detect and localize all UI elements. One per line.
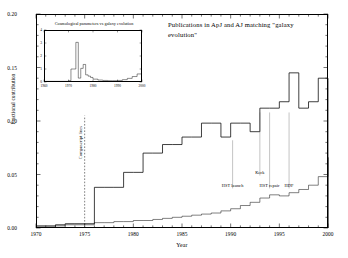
x-tick-label: 1975 (70, 231, 100, 237)
inset-y-tick-label: 2 (34, 54, 42, 58)
y-tick-label: 0.20 (0, 11, 17, 17)
y-tick-label: 0.15 (0, 65, 17, 71)
y-axis-title: Fractional contribution (10, 62, 16, 136)
inset-y-tick-label: 4 (34, 28, 42, 32)
inset-y-tick-label: 3 (34, 41, 42, 45)
x-axis-title: Year (36, 242, 328, 248)
inset-x-tick-label: 2000 (132, 84, 152, 88)
chart-figure: Fractional contribution Year Publication… (0, 0, 348, 258)
x-tick-label: 1995 (264, 231, 294, 237)
x-tick-label: 1990 (216, 231, 246, 237)
event-annotation-label: Keck (230, 170, 290, 175)
inset-x-tick-label: 1970 (59, 84, 79, 88)
y-tick-label: 0.00 (0, 225, 17, 231)
inset-x-tick-label: 1980 (83, 84, 103, 88)
x-tick-label: 1985 (167, 231, 197, 237)
inset-title: Cosmological parameters vs galaxy evolut… (36, 21, 152, 26)
x-tick-label: 1980 (118, 231, 148, 237)
x-tick-label: 2000 (313, 231, 343, 237)
inset-x-tick-label: 1960 (34, 84, 54, 88)
inset-plot-frame (44, 30, 142, 82)
chart-title: Publications in ApJ and AJ matching "gal… (168, 20, 318, 40)
event-annotation-label: HDF (259, 183, 319, 188)
y-tick-label: 0.10 (0, 118, 17, 124)
x-tick-label: 1970 (21, 231, 51, 237)
compuscript-lines-label: Compuscript lines (78, 121, 83, 165)
y-tick-label: 0.05 (0, 172, 17, 178)
inset-y-tick-label: 1 (34, 67, 42, 71)
inset-x-tick-label: 1990 (108, 84, 128, 88)
